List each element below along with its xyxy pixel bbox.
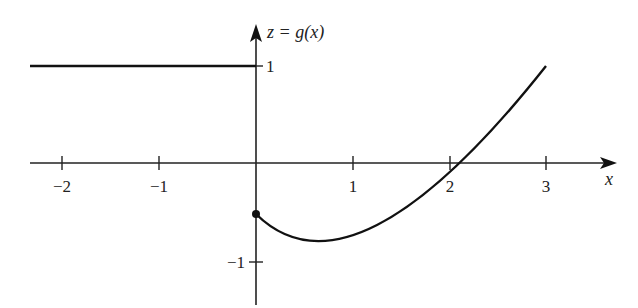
x-axis-label: x bbox=[604, 169, 613, 189]
x-tick-label: 3 bbox=[542, 177, 551, 196]
y-tick-label-positive: 1 bbox=[266, 57, 275, 76]
closed-dot-marker bbox=[252, 210, 260, 218]
y-tick-label-negative: −1 bbox=[227, 253, 245, 272]
x-tick-label: −1 bbox=[150, 177, 168, 196]
function-graph: −2 −1 1 2 3 1 −1 z = g(x) x bbox=[0, 0, 638, 308]
x-tick-label: 2 bbox=[446, 177, 455, 196]
x-axis bbox=[30, 157, 617, 169]
x-tick-label: −2 bbox=[53, 177, 71, 196]
series-parabola-curve bbox=[256, 66, 546, 241]
function-label: z = g(x) bbox=[266, 22, 324, 43]
x-tick-label: 1 bbox=[349, 177, 358, 196]
